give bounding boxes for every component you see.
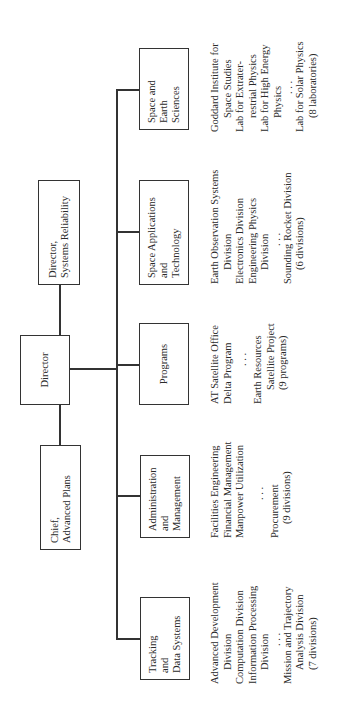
- division-title-line: Earth: [158, 55, 170, 123]
- director-staff-connector: [70, 369, 116, 371]
- advanced-plans-label-2: Advanced Plans: [61, 452, 73, 543]
- programs-box: Programs: [139, 323, 189, 405]
- ellipsis: . . .: [247, 441, 269, 538]
- list-item: Lab for Solar Physics: [294, 41, 307, 132]
- list-item: Division: [259, 170, 272, 284]
- drop-admin: [116, 496, 140, 498]
- list-item: Mission and Trajectory: [282, 582, 295, 684]
- ellipsis: . . .: [234, 323, 252, 404]
- list-item: Financial Management: [222, 441, 235, 538]
- division-title-line: Administration: [147, 462, 159, 531]
- list-item: Sounding Rocket Division: [282, 170, 295, 284]
- list-item: Electronics Division: [234, 170, 247, 284]
- list-item: (8 laboratories): [307, 41, 320, 132]
- systems-reliability-label-2: Systems Reliability: [59, 187, 71, 278]
- division-title-line: Tracking: [147, 604, 159, 673]
- list-item: Satellite Project: [265, 323, 278, 404]
- list-item: Advanced Development: [209, 582, 222, 684]
- list-item: Goddard Institute for: [209, 41, 222, 132]
- org-chart: Director Director, Systems Reliability C…: [0, 0, 363, 724]
- list-item: (9 divisions): [281, 441, 294, 538]
- list-item: Space Studies: [222, 41, 235, 132]
- advanced-plans-label-1: Chief,: [49, 452, 61, 543]
- division-title-line: Space and: [146, 55, 158, 123]
- space-earth-sciences-subunits-list: Goddard Institute for Space Studies Lab …: [209, 41, 319, 132]
- drop-space-apps: [116, 232, 140, 234]
- drop-space-earth: [116, 90, 140, 92]
- division-title-line: Management: [171, 462, 183, 531]
- space-applications-subunits-list: Earth Observation Systems Division Elect…: [209, 170, 307, 284]
- division-title-line: Sciences: [170, 55, 182, 123]
- division-title-line: and: [158, 187, 170, 278]
- list-item: AT Satellite Office: [209, 323, 222, 404]
- list-item: (9 programs): [277, 323, 290, 404]
- space-earth-sciences-box: Space and Earth Sciences: [139, 48, 189, 130]
- ellipsis: . . .: [284, 41, 294, 132]
- list-item: (7 divisions): [307, 582, 320, 684]
- list-item: Computation Division: [234, 582, 247, 684]
- division-title-line: and: [159, 604, 171, 673]
- space-applications-technology-box: Space Applications and Technology: [139, 180, 189, 285]
- list-item: Procurement: [269, 441, 282, 538]
- drop-programs: [116, 365, 140, 367]
- list-item: Facilities Engineering: [209, 441, 222, 538]
- administration-subunits-list: Facilities Engineering Financial Managem…: [209, 441, 294, 538]
- list-item: restrial Physics: [247, 41, 260, 132]
- tracking-data-systems-box: Tracking and Data Systems: [140, 597, 190, 680]
- division-title-line: Space Applications: [146, 187, 158, 278]
- list-item: Engineering Physics: [247, 170, 260, 284]
- director-label: Director: [39, 353, 51, 388]
- list-item: (6 divisions): [294, 170, 307, 284]
- list-item: Division: [259, 582, 272, 684]
- systems-reliability-box: Director, Systems Reliability: [38, 180, 80, 285]
- division-title-line: and: [159, 462, 171, 531]
- systems-reliability-label-1: Director,: [47, 187, 59, 278]
- director-box: Director: [20, 335, 70, 405]
- ellipsis: . . .: [272, 170, 282, 284]
- list-item: Analysis Division: [294, 582, 307, 684]
- ellipsis: . . .: [272, 582, 282, 684]
- advanced-plans-box: Chief, Advanced Plans: [40, 445, 81, 550]
- list-item: Division: [222, 170, 235, 284]
- drop-tracking: [116, 639, 140, 641]
- list-item: Information Processing: [247, 582, 260, 684]
- division-title-line: Technology: [170, 187, 182, 278]
- list-item: Manpower Utilization: [234, 441, 247, 538]
- list-item: Lab for High Energy: [259, 41, 272, 132]
- division-title-line: Data Systems: [171, 604, 183, 673]
- list-item: Division: [222, 582, 235, 684]
- list-item: Lab for Extrater-: [234, 41, 247, 132]
- list-item: Earth Resources: [252, 323, 265, 404]
- list-item: Delta Program: [222, 323, 235, 404]
- tracking-subunits-list: Advanced Development Division Computatio…: [209, 582, 319, 684]
- division-title-line: Programs: [158, 344, 170, 384]
- administration-management-box: Administration and Management: [140, 455, 190, 538]
- list-item: Earth Observation Systems: [209, 170, 222, 284]
- programs-subunits-list: AT Satellite Office Delta Program . . . …: [209, 323, 290, 404]
